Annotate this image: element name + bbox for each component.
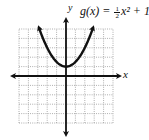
function-name: g(x) = <box>80 4 113 18</box>
fraction-one-half: 12 <box>114 6 120 19</box>
function-label: g(x) = 12x² + 1 <box>80 4 149 19</box>
fraction-denominator: 2 <box>114 13 120 19</box>
y-axis-label: y <box>68 2 72 13</box>
function-rest: x² + 1 <box>121 4 149 18</box>
x-axis-label: x <box>123 68 128 80</box>
